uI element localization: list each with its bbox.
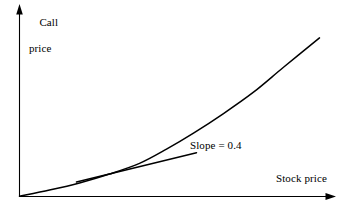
call-price-vs-stock-price-figure: Call price Stock price Slope = 0.4 bbox=[0, 0, 342, 212]
y-axis-label-line1: Call bbox=[39, 16, 58, 28]
arrow-right-icon bbox=[326, 193, 337, 200]
y-axis-label: Call price bbox=[28, 3, 58, 81]
call-price-curve bbox=[20, 38, 320, 196]
y-axis-label-line2: price bbox=[28, 42, 58, 55]
arrow-up-icon bbox=[16, 4, 23, 15]
x-axis-label: Stock price bbox=[276, 172, 327, 185]
tangent-line bbox=[77, 153, 197, 182]
x-axis bbox=[20, 193, 337, 200]
y-axis bbox=[16, 4, 23, 197]
slope-annotation-label: Slope = 0.4 bbox=[190, 139, 242, 152]
